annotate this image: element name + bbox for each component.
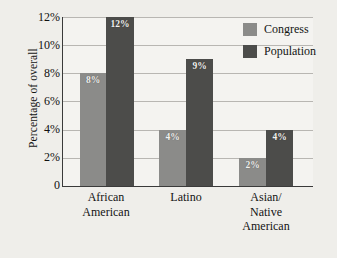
x-label-asian-native-american: Asian/ Native American [222,190,310,234]
x-label-line: Latino [142,190,230,205]
y-axis-tick-labels: 12% 10% 8% 6% 4% 2% 0 [14,0,60,258]
y-tick-label-4: 4% [18,123,60,135]
x-label-line: Asian/ [222,190,310,205]
x-label-line: African [60,190,152,205]
bar-value-label: 4% [266,132,293,142]
y-tick-label-12: 12% [18,11,60,23]
bar-value-label: 2% [239,160,266,170]
legend-item-population: Population [243,42,337,60]
y-tick-label-0: 0 [18,179,60,191]
x-label-line: Native [222,205,310,220]
x-axis-category-labels: African American Latino Asian/ Native Am… [62,190,312,250]
bar-population-latino: 9% [186,59,213,186]
bar-congress-asian-native-american: 2% [239,158,266,186]
x-label-latino: Latino [142,190,230,205]
bar-value-label: 4% [159,132,186,142]
legend-label-congress: Congress [264,22,309,37]
legend: Congress Population [243,20,337,64]
bar-chart: Percentage of overall 12% 10% 8% 6% 4% 2… [0,0,337,258]
y-tick-label-2: 2% [18,151,60,163]
y-tick-label-6: 6% [18,95,60,107]
bar-value-label: 9% [186,61,213,71]
bar-population-asian-native-american: 4% [266,130,293,186]
legend-swatch-icon-population [243,45,257,58]
bar-congress-african-american: 8% [80,73,106,186]
x-label-line: American [222,219,310,234]
bar-value-label: 8% [80,75,106,85]
legend-swatch-icon-congress [243,23,257,36]
y-tick-label-8: 8% [18,67,60,79]
x-label-african-american: African American [60,190,152,219]
legend-label-population: Population [264,44,316,59]
bar-value-label: 12% [106,19,134,29]
y-tick-label-10: 10% [18,39,60,51]
legend-item-congress: Congress [243,20,337,38]
bar-congress-latino: 4% [159,130,186,186]
x-label-line: American [60,205,152,220]
bar-population-african-american: 12% [106,17,134,186]
